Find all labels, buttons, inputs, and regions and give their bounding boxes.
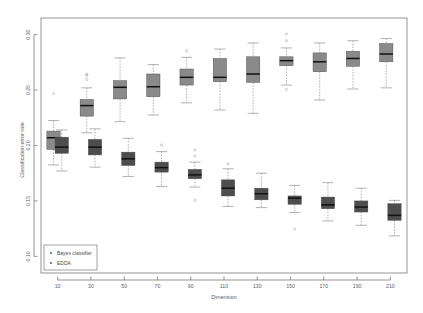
outlier-point: [294, 228, 296, 230]
legend-border: [44, 245, 97, 270]
x-tick-label: 190: [353, 283, 362, 289]
boxplot-box: [247, 43, 260, 113]
outlier-point: [285, 33, 287, 35]
box-iqr: [388, 204, 401, 221]
outlier-point: [194, 199, 196, 201]
outlier-point: [227, 163, 229, 165]
outlier-point: [186, 50, 188, 52]
boxplot-box: [80, 73, 93, 132]
x-tick-label: 10: [55, 283, 61, 289]
legend-marker-icon: [50, 252, 52, 254]
boxplot-box: [346, 41, 359, 89]
outlier-point: [194, 149, 196, 151]
boxplot-box: [88, 129, 101, 167]
y-tick-label: 0.10: [25, 251, 31, 261]
box-iqr: [288, 196, 301, 204]
y-tick-label: 0.30: [25, 29, 31, 39]
y-tick-label: 0.15: [25, 196, 31, 206]
chart-legend: Bayes classifierEDDA: [44, 245, 97, 270]
boxplot-box: [47, 92, 60, 165]
boxplot-box: [321, 183, 334, 221]
y-axis: 0.100.150.200.250.30: [25, 29, 38, 261]
outlier-point: [285, 88, 287, 90]
outlier-point: [160, 144, 162, 146]
outlier-point: [86, 78, 88, 80]
x-axis-title: Dimension: [211, 294, 236, 300]
y-tick-label: 0.25: [25, 85, 31, 95]
x-tick-label: 130: [253, 283, 262, 289]
box-iqr: [213, 58, 226, 81]
boxplot-box: [355, 188, 368, 225]
y-tick-label: 0.20: [25, 140, 31, 150]
boxplot-box: [188, 149, 201, 202]
y-axis-title: Classification error rate: [19, 122, 25, 177]
box-iqr: [113, 81, 126, 99]
boxplot-box: [147, 65, 160, 115]
boxplot-box: [213, 49, 226, 110]
boxplot-box: [180, 50, 193, 103]
boxplot-box: [255, 173, 268, 207]
boxplot-box: [221, 163, 234, 207]
boxplot-box: [388, 200, 401, 235]
x-tick-label: 50: [121, 283, 127, 289]
boxplot-series-group: [47, 33, 401, 236]
x-tick-label: 150: [286, 283, 295, 289]
series-bayes-classifier: [55, 129, 401, 236]
box-iqr: [55, 137, 68, 153]
legend-marker-icon: [50, 262, 52, 264]
box-iqr: [247, 57, 260, 83]
x-tick-label: 170: [319, 283, 328, 289]
x-tick-label: 70: [155, 283, 161, 289]
boxplot-figure: 0.100.150.200.250.30 1030507090110130150…: [0, 0, 423, 313]
outlier-point: [285, 40, 287, 42]
legend-label: Bayes classifier: [57, 250, 92, 256]
boxplot-box: [113, 58, 126, 122]
box-iqr: [380, 44, 393, 62]
boxplot-box: [380, 39, 393, 88]
outlier-point: [52, 92, 54, 94]
x-tick-label: 90: [188, 283, 194, 289]
box-iqr: [80, 99, 93, 116]
boxplot-box: [313, 43, 326, 100]
box-iqr: [188, 169, 201, 178]
boxplot-box: [155, 144, 168, 187]
chart-canvas: 0.100.150.200.250.30 1030507090110130150…: [0, 0, 423, 313]
boxplot-box: [288, 185, 301, 230]
legend-label: EDDA: [57, 260, 72, 266]
box-iqr: [321, 197, 334, 209]
x-tick-label: 210: [386, 283, 395, 289]
outlier-point: [194, 155, 196, 157]
x-tick-label: 30: [88, 283, 94, 289]
boxplot-box: [122, 138, 135, 176]
boxplot-box: [280, 33, 293, 91]
x-axis: 1030507090110130150170190210: [55, 277, 395, 289]
box-iqr: [147, 74, 160, 97]
x-tick-label: 110: [220, 283, 228, 289]
